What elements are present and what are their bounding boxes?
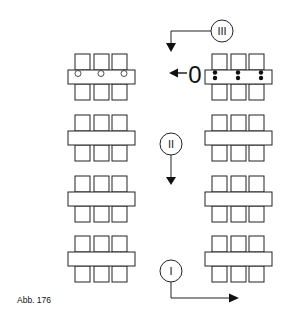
right-table-row-3 (205, 176, 272, 222)
marker-zero: 0 (169, 61, 202, 88)
filled-dot-marker (236, 76, 240, 80)
filled-dot-marker (213, 70, 217, 74)
filled-dot-marker (259, 70, 263, 74)
right-table-row-4 (205, 236, 272, 282)
svg-text:I: I (169, 265, 172, 277)
left-table-row-1 (68, 54, 135, 100)
filled-dot-marker (259, 76, 263, 80)
marker-ii: II (160, 133, 182, 185)
filled-dot-marker (213, 76, 217, 80)
arrow-left-icon (169, 69, 178, 78)
left-table-row-4 (68, 236, 135, 282)
arrow-down-icon (166, 43, 176, 52)
figure-caption: Abb. 176 (17, 295, 51, 305)
arrow-down-icon (166, 177, 176, 185)
left-table-row-3 (68, 176, 135, 222)
open-circle-marker (121, 71, 127, 77)
svg-text:II: II (168, 138, 174, 150)
table-arrangement-diagram: III 0 II I (0, 0, 292, 332)
svg-text:III: III (217, 25, 226, 37)
marker-iii: III (166, 20, 233, 52)
right-table-row-1 (205, 54, 272, 100)
open-circle-marker (98, 71, 104, 77)
open-circle-marker (75, 71, 81, 77)
right-table-row-2 (205, 115, 272, 161)
svg-text:0: 0 (188, 61, 201, 88)
arrow-right-icon (229, 294, 239, 303)
filled-dot-marker (236, 70, 240, 74)
left-table-row-2 (68, 115, 135, 161)
